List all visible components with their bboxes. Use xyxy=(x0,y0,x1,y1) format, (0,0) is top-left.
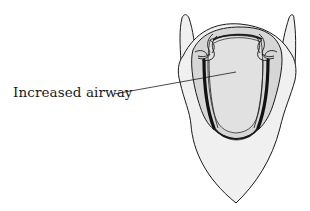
airway-label: Increased airway xyxy=(13,84,133,100)
larynx-illustration xyxy=(0,0,310,211)
larynx-diagram xyxy=(0,0,310,211)
airway-opening-shape xyxy=(208,36,263,134)
